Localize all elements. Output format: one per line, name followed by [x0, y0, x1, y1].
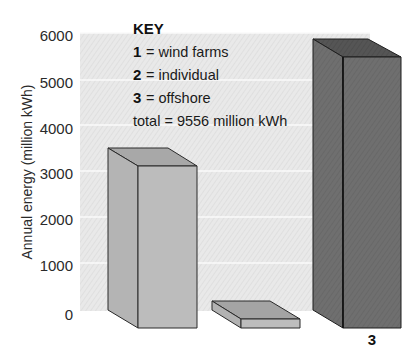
legend-label-1: = wind farms — [146, 44, 229, 60]
y-tick-1000: 1000 — [40, 257, 73, 274]
bar-chart: 6000 5000 4000 3000 2000 1000 0 Annual e… — [0, 0, 413, 359]
category-label-3: 3 — [368, 331, 376, 348]
legend-num-1: 1 — [133, 43, 141, 60]
y-tick-2000: 2000 — [40, 211, 73, 228]
y-axis-label: Annual energy (million kWh) — [19, 84, 35, 259]
legend-num-2: 2 — [133, 66, 141, 83]
legend-total: total = 9556 million kWh — [133, 113, 287, 129]
y-tick-5000: 5000 — [40, 74, 73, 91]
legend-num-3: 3 — [133, 89, 141, 106]
legend-label-3: = offshore — [146, 90, 211, 106]
bar-offshore — [313, 39, 401, 328]
y-tick-0: 0 — [65, 306, 73, 323]
y-tick-4000: 4000 — [40, 120, 73, 137]
y-tick-6000: 6000 — [40, 27, 73, 44]
bar-wind-farms — [108, 148, 197, 328]
legend-label-2: = individual — [146, 67, 219, 83]
y-axis: 6000 5000 4000 3000 2000 1000 0 Annual e… — [19, 27, 73, 323]
legend-title: KEY — [133, 20, 164, 37]
y-tick-3000: 3000 — [40, 165, 73, 182]
